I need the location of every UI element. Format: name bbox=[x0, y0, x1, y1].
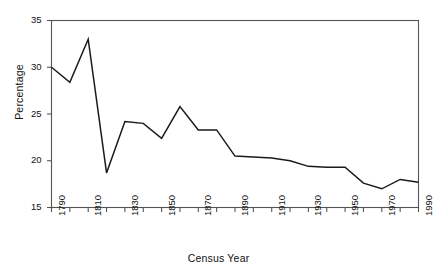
x-tick-label: 1850 bbox=[166, 194, 177, 215]
x-tick-label: 1870 bbox=[202, 194, 213, 215]
line-chart-plot bbox=[0, 0, 437, 273]
x-tick-label: 1990 bbox=[423, 194, 434, 215]
x-tick-label: 1810 bbox=[92, 194, 103, 215]
x-tick-label: 1930 bbox=[312, 194, 323, 215]
y-tick-label: 20 bbox=[8, 154, 42, 165]
y-tick-label: 30 bbox=[8, 61, 42, 72]
x-axis-ticks bbox=[52, 208, 419, 213]
plot-frame bbox=[52, 21, 419, 208]
data-series-group bbox=[52, 39, 419, 189]
x-tick-label: 1790 bbox=[56, 194, 67, 215]
y-tick-label: 25 bbox=[8, 108, 42, 119]
x-tick-label: 1950 bbox=[349, 194, 360, 215]
x-tick-label: 1830 bbox=[129, 194, 140, 215]
y-axis-ticks bbox=[47, 21, 52, 208]
x-tick-label: 1970 bbox=[386, 194, 397, 215]
y-tick-label: 35 bbox=[8, 14, 42, 25]
y-tick-label: 15 bbox=[8, 201, 42, 212]
x-tick-label: 1890 bbox=[239, 194, 250, 215]
x-axis-title: Census Year bbox=[0, 252, 437, 264]
x-tick-label: 1910 bbox=[276, 194, 287, 215]
chart-figure: Percentage Census Year 1520253035 179018… bbox=[0, 0, 437, 273]
